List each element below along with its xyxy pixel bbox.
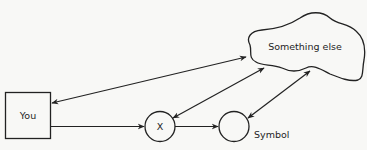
edge-symbol-something-else (248, 71, 310, 118)
diagram-canvas: You X Symbol Something else (0, 0, 367, 150)
you-label: You (19, 110, 36, 121)
x-label: X (157, 121, 164, 132)
edge-x-something-else (173, 68, 264, 118)
symbol-label: Symbol (254, 129, 289, 140)
node-something-else: Something else (249, 13, 365, 81)
edge-you-something-else (52, 57, 246, 103)
node-symbol: Symbol (219, 112, 289, 142)
node-you: You (6, 93, 51, 139)
symbol-circle (219, 112, 249, 142)
node-x: X (145, 112, 175, 142)
something-else-label: Something else (268, 41, 342, 52)
edges (51, 57, 310, 127)
